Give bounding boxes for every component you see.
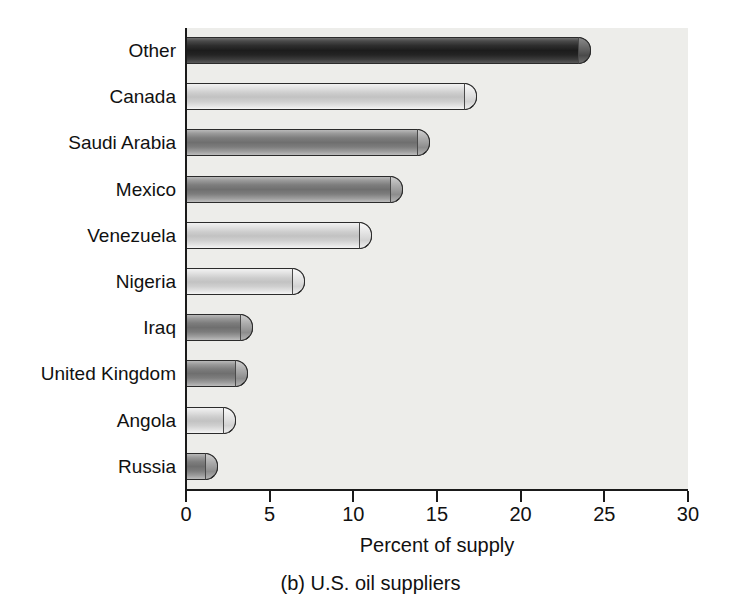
category-label-venezuela: Venezuela	[87, 222, 176, 249]
x-tick-label: 25	[574, 503, 634, 526]
figure-caption: (b) U.S. oil suppliers	[0, 572, 741, 595]
x-tick-mark	[520, 491, 522, 502]
x-tick-label: 15	[407, 503, 467, 526]
x-tick-label: 30	[658, 503, 718, 526]
oil-suppliers-bar-chart: OtherCanadaSaudi ArabiaMexicoVenezuelaNi…	[0, 0, 741, 606]
bar-other	[186, 37, 591, 64]
x-tick-label: 10	[323, 503, 383, 526]
category-label-canada: Canada	[109, 83, 176, 110]
x-tick-label: 20	[491, 503, 551, 526]
x-tick-mark	[687, 491, 689, 502]
bar-iraq	[186, 314, 253, 341]
category-label-united-kingdom: United Kingdom	[41, 360, 176, 387]
bar-venezuela	[186, 222, 372, 249]
x-tick-label: 0	[156, 503, 216, 526]
y-axis-spine	[185, 28, 187, 491]
x-tick-mark	[269, 491, 271, 502]
bar-canada	[186, 83, 477, 110]
category-label-iraq: Iraq	[143, 314, 176, 341]
category-label-saudi-arabia: Saudi Arabia	[68, 129, 176, 156]
bar-angola	[186, 407, 236, 434]
category-label-russia: Russia	[118, 453, 176, 480]
x-tick-label: 5	[240, 503, 300, 526]
category-label-mexico: Mexico	[116, 176, 176, 203]
bar-mexico	[186, 176, 403, 203]
x-tick-mark	[436, 491, 438, 502]
bar-nigeria	[186, 268, 305, 295]
bar-united-kingdom	[186, 360, 248, 387]
bar-russia	[186, 453, 218, 480]
x-tick-mark	[603, 491, 605, 502]
x-axis-title: Percent of supply	[186, 534, 688, 557]
x-tick-mark	[352, 491, 354, 502]
category-label-other: Other	[128, 37, 176, 64]
bar-saudi-arabia	[186, 129, 430, 156]
category-label-nigeria: Nigeria	[116, 268, 176, 295]
x-tick-mark	[185, 491, 187, 502]
category-label-angola: Angola	[117, 407, 176, 434]
